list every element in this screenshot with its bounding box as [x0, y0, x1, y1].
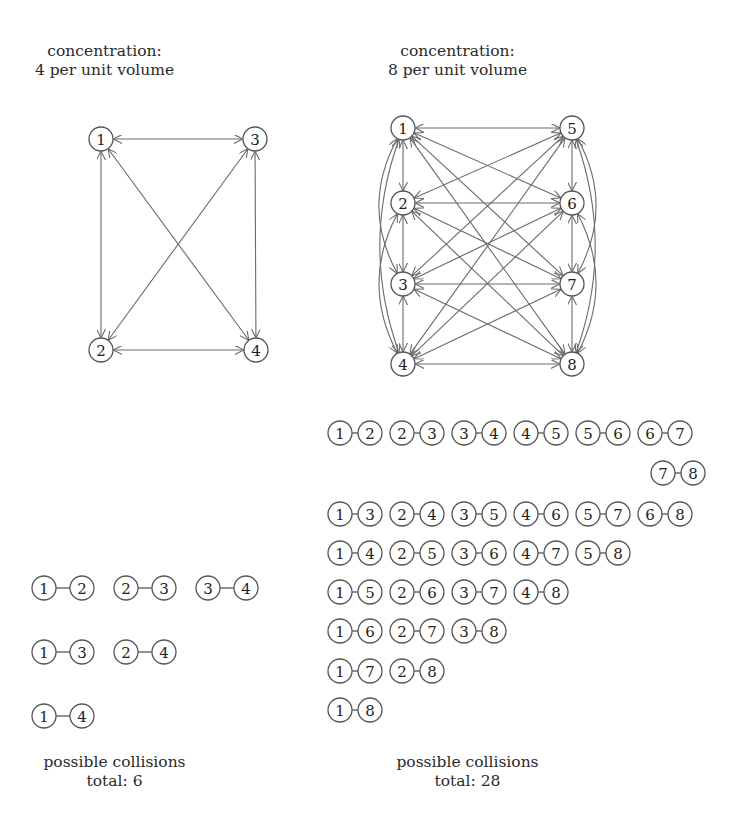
pair-node-4: 4	[70, 704, 94, 728]
pair-node-3: 3	[452, 421, 476, 445]
svg-text:4: 4	[489, 425, 499, 443]
svg-text:8: 8	[551, 584, 561, 602]
svg-text:8: 8	[613, 545, 623, 563]
svg-text:7: 7	[613, 506, 623, 524]
pair-node-5: 5	[358, 580, 382, 604]
pair-node-5: 5	[576, 502, 600, 526]
pair-node-6: 6	[638, 421, 662, 445]
svg-text:7: 7	[551, 545, 561, 563]
svg-text:8: 8	[688, 465, 698, 483]
svg-text:8: 8	[427, 663, 437, 681]
svg-text:7: 7	[427, 623, 437, 641]
pair-node-5: 5	[576, 541, 600, 565]
pair-node-5: 5	[482, 502, 506, 526]
collision-pair-5-6: 56	[576, 421, 630, 445]
right-footer-line1: possible collisions	[375, 753, 560, 772]
pair-node-3: 3	[452, 541, 476, 565]
svg-text:4: 4	[241, 580, 251, 598]
svg-text:3: 3	[427, 425, 437, 443]
svg-text:3: 3	[250, 131, 260, 149]
svg-text:8: 8	[567, 356, 577, 374]
svg-text:6: 6	[489, 545, 499, 563]
svg-text:3: 3	[365, 506, 375, 524]
pair-node-8: 8	[420, 659, 444, 683]
pair-node-4: 4	[482, 421, 506, 445]
collision-pair-2-3: 23	[114, 576, 176, 600]
collision-pair-3-5: 35	[452, 502, 506, 526]
pair-node-6: 6	[358, 619, 382, 643]
pair-node-2: 2	[114, 576, 138, 600]
pair-node-3: 3	[452, 502, 476, 526]
svg-text:4: 4	[521, 425, 531, 443]
pair-node-5: 5	[420, 541, 444, 565]
svg-text:5: 5	[567, 120, 577, 138]
pair-node-1: 1	[328, 421, 352, 445]
svg-text:5: 5	[583, 425, 593, 443]
right-collision-graph: 15263748	[379, 116, 596, 376]
pair-node-3: 3	[196, 576, 220, 600]
particle-node-8: 8	[560, 352, 584, 376]
svg-text:1: 1	[335, 623, 345, 641]
collision-pair-1-2: 12	[328, 421, 382, 445]
svg-text:3: 3	[459, 584, 469, 602]
collision-pair-5-7: 57	[576, 502, 630, 526]
svg-text:7: 7	[365, 663, 375, 681]
pair-node-6: 6	[638, 502, 662, 526]
svg-text:2: 2	[397, 584, 407, 602]
collision-pair-3-8: 38	[452, 619, 506, 643]
particle-node-1: 1	[391, 116, 415, 140]
svg-text:1: 1	[335, 425, 345, 443]
pair-node-7: 7	[544, 541, 568, 565]
pair-node-3: 3	[452, 580, 476, 604]
pair-node-1: 1	[328, 698, 352, 722]
pair-node-3: 3	[358, 502, 382, 526]
diagram-canvas: 1324 15263748 122334132414 1223344556677…	[0, 0, 741, 825]
pair-node-4: 4	[152, 640, 176, 664]
pair-node-3: 3	[452, 619, 476, 643]
svg-text:2: 2	[365, 425, 375, 443]
particle-node-1: 1	[89, 127, 113, 151]
svg-text:2: 2	[397, 545, 407, 563]
collision-pair-2-4: 24	[390, 502, 444, 526]
svg-text:2: 2	[121, 644, 131, 662]
collision-pair-1-8: 18	[328, 698, 382, 722]
svg-text:7: 7	[658, 465, 668, 483]
pair-node-7: 7	[420, 619, 444, 643]
svg-text:1: 1	[39, 580, 49, 598]
svg-text:5: 5	[583, 545, 593, 563]
pair-node-6: 6	[420, 580, 444, 604]
svg-text:1: 1	[39, 644, 49, 662]
pair-node-8: 8	[668, 502, 692, 526]
pair-node-1: 1	[328, 580, 352, 604]
svg-text:5: 5	[489, 506, 499, 524]
edge-5-8	[576, 140, 595, 352]
pair-node-1: 1	[328, 659, 352, 683]
pair-node-2: 2	[390, 541, 414, 565]
particle-node-2: 2	[89, 338, 113, 362]
pair-node-7: 7	[358, 659, 382, 683]
pair-node-2: 2	[114, 640, 138, 664]
left-pair-list: 122334132414	[32, 576, 258, 728]
svg-text:3: 3	[459, 506, 469, 524]
left-collision-graph: 1324	[89, 127, 268, 362]
collision-pair-2-8: 28	[390, 659, 444, 683]
svg-text:4: 4	[427, 506, 437, 524]
pair-node-2: 2	[390, 502, 414, 526]
svg-text:4: 4	[521, 506, 531, 524]
svg-text:2: 2	[397, 663, 407, 681]
right-footer-line2: total: 28	[375, 772, 560, 791]
pair-node-8: 8	[681, 461, 705, 485]
svg-text:1: 1	[335, 506, 345, 524]
pair-node-6: 6	[606, 421, 630, 445]
svg-text:1: 1	[39, 708, 49, 726]
svg-text:3: 3	[459, 545, 469, 563]
svg-text:5: 5	[583, 506, 593, 524]
svg-text:1: 1	[335, 663, 345, 681]
pair-node-5: 5	[576, 421, 600, 445]
svg-text:4: 4	[521, 545, 531, 563]
pair-node-1: 1	[328, 541, 352, 565]
collision-pair-1-3: 13	[32, 640, 94, 664]
pair-node-3: 3	[152, 576, 176, 600]
pair-node-1: 1	[32, 576, 56, 600]
pair-node-8: 8	[544, 580, 568, 604]
